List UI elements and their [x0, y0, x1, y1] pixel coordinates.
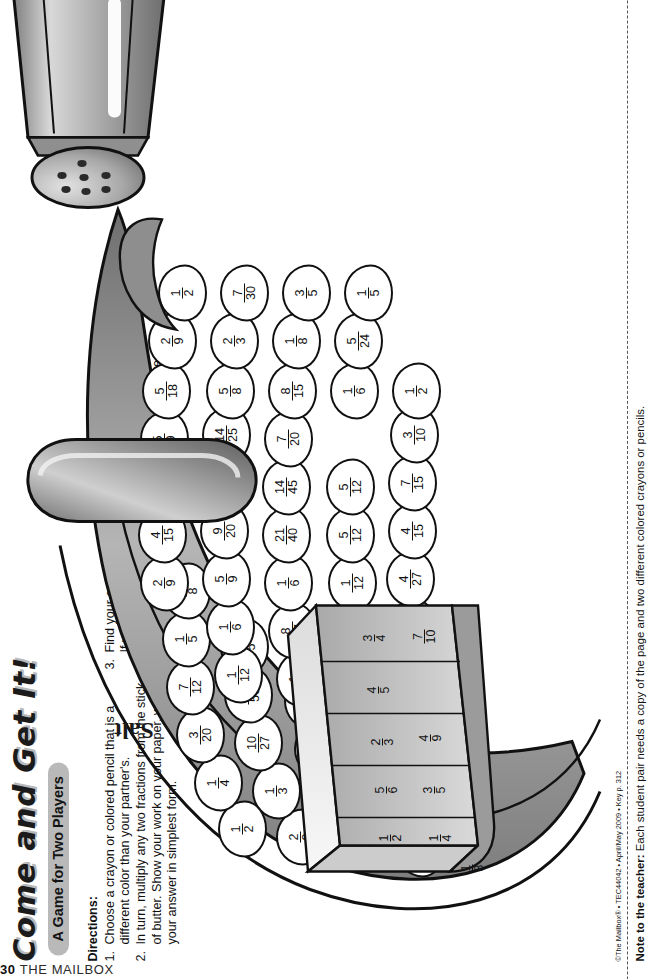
corn-cob-illustration: 15 38 14 320 712 19 316 29 13 1027 2150 …: [96, 83, 566, 893]
butter-fraction-1-3: 13: [460, 864, 485, 871]
kernel-fraction-1-2-b: 12: [404, 385, 429, 396]
kernel[interactable]: 16: [330, 362, 379, 419]
kernel[interactable]: 730: [220, 264, 269, 321]
kernel[interactable]: 320: [176, 706, 225, 763]
butter-fraction-3-5: 35: [422, 786, 447, 793]
kernel-fraction-5-12-a: 512: [338, 526, 363, 544]
butter-fraction-7-10: 710: [412, 629, 437, 643]
kernel-fraction-1-12-a: 112: [340, 574, 365, 592]
kernel-fraction-4-15-a: 415: [400, 522, 425, 540]
cut-line-divider: [627, 0, 628, 979]
worksheet-sheet-rotated: Come and Get It! A Game for Two Players …: [0, 0, 654, 979]
kernel[interactable]: 1027: [234, 714, 283, 771]
kernel[interactable]: 15: [344, 264, 393, 321]
note-to-teacher-text: Each student pair needs a copy of the pa…: [634, 405, 646, 854]
note-to-teacher-label: Note to the teacher:: [634, 854, 646, 961]
kernel-fraction-4-27-a: 427: [398, 570, 423, 588]
butter-fraction-4-9: 49: [418, 734, 443, 741]
kernel-fraction-1-12-b: 112: [226, 666, 251, 684]
page-brand: THE MAILBOX: [20, 962, 114, 977]
kernel-fraction-10-27-a: 1027: [246, 734, 271, 752]
butter-fraction-3-4: 34: [362, 634, 387, 641]
kernel-fraction-1-6-a: 16: [276, 577, 301, 588]
butter-fraction-2-3: 23: [370, 738, 395, 745]
kernel-fraction-3-10-a: 310: [402, 426, 427, 444]
page-number: 30: [0, 962, 16, 977]
kernel-fraction-5-12-b: 512: [338, 478, 363, 496]
copyright-credit: ©The Mailbox® • TEC44042 • April/May 200…: [614, 770, 623, 961]
kernel-fraction-1-6-c: 16: [342, 385, 367, 396]
butter-fraction-4-5: 45: [366, 686, 391, 693]
page-title: Come and Get It!: [6, 656, 42, 961]
salt-shaker-icon: [4, 0, 174, 213]
kernel-fraction-1-6-b: 16: [218, 621, 243, 632]
salt-label: Salt: [114, 716, 154, 743]
butter-fraction-5-6: 56: [374, 786, 399, 793]
kernel-fraction-2-9-c: 29: [152, 577, 177, 588]
kernel-fraction-7-30-a: 730: [232, 284, 257, 302]
butter-fractions: 13 14 12 35 56 23 49 45 34 710: [282, 593, 512, 893]
worksheet-page: Come and Get It! A Game for Two Players …: [0, 0, 654, 979]
kernel-fraction-1-8-a: 18: [284, 335, 309, 346]
kernel-fraction-7-15-a: 715: [400, 474, 425, 492]
knife-icon: [22, 325, 282, 575]
kernel-fraction-3-5-a: 35: [294, 287, 319, 298]
kernel[interactable]: 35: [282, 264, 331, 321]
kernel[interactable]: 12: [392, 362, 441, 419]
note-to-teacher: Note to the teacher: Each student pair n…: [634, 405, 646, 961]
butter-fraction-1-2: 12: [378, 834, 403, 841]
kernel-fraction-7-12-b: 712: [178, 678, 203, 696]
kernel-fraction-3-20-b: 320: [188, 726, 213, 744]
kernel-fraction-1-2-a: 12: [230, 823, 255, 834]
kernel[interactable]: 512: [326, 458, 375, 515]
kernel-fraction-8-15-a: 815: [280, 382, 305, 400]
page-footer: 30 THE MAILBOX: [0, 962, 114, 977]
kernel-fraction-5-24-a: 524: [346, 332, 371, 350]
cob-tip-husk-icon: [114, 213, 184, 333]
butter-fraction-1-4: 14: [428, 834, 453, 841]
kernel-fraction-1-5-c: 15: [356, 287, 381, 298]
kernel-fraction-1-4-b: 14: [206, 777, 231, 788]
kernel-fraction-1-5-b: 15: [174, 633, 199, 644]
